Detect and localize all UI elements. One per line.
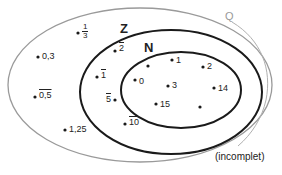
dot-neg-two [113,49,116,52]
dot-three [166,84,169,87]
set-z-label: Z [120,22,128,35]
dot-one-twenty-five [63,128,66,131]
dot-fifteen [154,102,157,105]
element-zero-five-repeating: 0,5 [39,91,52,100]
set-n-label: N [144,41,153,54]
dot-two [201,65,204,68]
dot-zero-three [36,55,39,58]
element-zero: 0 [139,77,144,86]
dot-zero [133,78,136,81]
element-fifteen: 15 [160,100,170,109]
set-q-label: Q [225,11,234,22]
dot-one-third [76,31,79,34]
element-fourteen: 14 [218,84,228,93]
dot-one [170,58,173,61]
element-neg-two: 2 [119,44,124,53]
element-zero-three: 0,3 [42,52,55,61]
venn-diagram [0,0,282,175]
element-three: 3 [172,81,177,90]
element-one: 1 [176,56,181,65]
element-two: 2 [207,62,212,71]
incomplete-note: (incomplet) [215,151,264,162]
element-one-twenty-five: 1,25 [69,125,87,134]
element-neg-five: 5 [106,95,111,104]
element-neg-ten: 10 [129,118,139,127]
dot-unlabeled-n-2 [198,105,201,108]
dot-unlabeled-n-1 [146,64,149,67]
fraction-denominator: 3 [83,32,87,40]
element-one-third: 1 3 [82,23,88,40]
dot-neg-five [113,98,116,101]
set-z-boundary [80,30,262,154]
dot-fourteen [212,86,215,89]
dot-neg-ten [123,122,126,125]
dot-neg-one [95,75,98,78]
dot-zero-five-repeating [33,95,36,98]
element-neg-one: 1 [101,71,106,80]
